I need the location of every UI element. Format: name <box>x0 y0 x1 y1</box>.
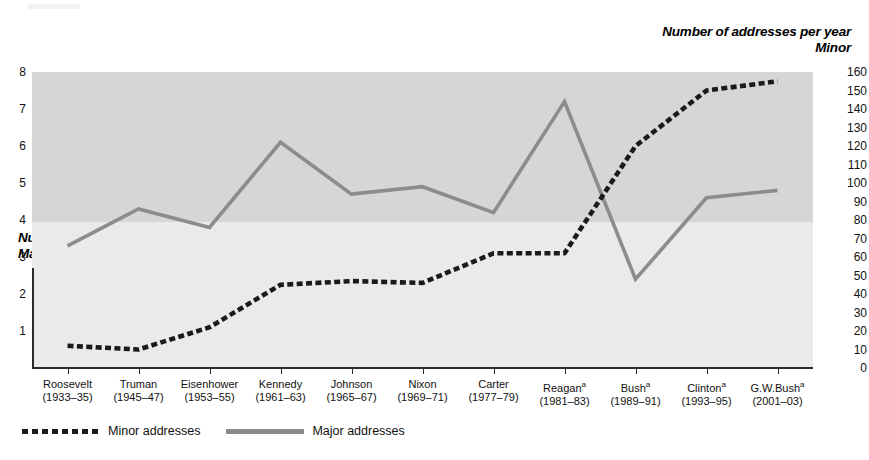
right-tick-80: 80 <box>841 214 867 226</box>
legend-label-minor: Minor addresses <box>108 424 200 438</box>
right-tick-50: 50 <box>841 270 867 282</box>
right-tick-160: 160 <box>841 66 867 78</box>
right-tick-70: 70 <box>841 233 867 245</box>
x-tick-mark <box>707 368 708 374</box>
x-category-footnote-marker: a <box>646 380 650 389</box>
left-tick-4: 4 <box>14 214 26 226</box>
x-tick-mark <box>352 368 353 374</box>
x-tick-mark <box>778 368 779 374</box>
chart-legend: Minor addresses Major addresses <box>22 424 405 438</box>
x-category-years: (1969–71) <box>397 391 447 404</box>
x-category-years: (1989–91) <box>610 395 660 408</box>
x-category-footnote-marker: a <box>582 380 586 389</box>
x-category-roosevelt: Roosevelt(1933–35) <box>42 378 92 404</box>
left-tick-2: 2 <box>14 288 26 300</box>
x-category-clinton: Clintona(1993–95) <box>681 378 731 408</box>
x-category-name: Kennedy <box>255 378 305 391</box>
x-category-name: Eisenhower <box>181 378 238 391</box>
series-line-minor <box>68 81 778 349</box>
legend-swatch-solid-icon <box>226 429 304 434</box>
x-category-name: G.W.Busha <box>751 378 805 395</box>
x-category-years: (1945–47) <box>113 391 163 404</box>
x-tick-mark <box>636 368 637 374</box>
chart-container: Number of addresses per year Minor Numbe… <box>0 0 869 460</box>
x-category-name: Reagana <box>539 378 589 395</box>
x-category-reagan: Reagana(1981–83) <box>539 378 589 408</box>
right-tick-120: 120 <box>841 140 867 152</box>
right-axis-title: Number of addresses per year Minor <box>662 24 851 56</box>
x-category-name: Carter <box>468 378 518 391</box>
right-tick-100: 100 <box>841 177 867 189</box>
right-tick-110: 110 <box>841 159 867 171</box>
right-tick-40: 40 <box>841 288 867 300</box>
x-category-nixon: Nixon(1969–71) <box>397 378 447 404</box>
x-category-years: (1933–35) <box>42 391 92 404</box>
x-category-johnson: Johnson(1965–67) <box>326 378 376 404</box>
legend-swatch-dotted-icon <box>22 429 100 434</box>
x-category-footnote-marker: a <box>721 380 725 389</box>
legend-label-major: Major addresses <box>312 424 404 438</box>
x-category-g-w-bush: G.W.Busha(2001–03) <box>751 378 805 408</box>
x-category-carter: Carter(1977–79) <box>468 378 518 404</box>
right-tick-130: 130 <box>841 122 867 134</box>
right-tick-20: 20 <box>841 325 867 337</box>
legend-item-major: Major addresses <box>226 424 404 438</box>
scan-artifact <box>28 4 80 9</box>
left-axis-line <box>32 268 34 368</box>
x-category-name: Busha <box>610 378 660 395</box>
x-category-truman: Truman(1945–47) <box>113 378 163 404</box>
right-tick-90: 90 <box>841 196 867 208</box>
x-category-kennedy: Kennedy(1961–63) <box>255 378 305 404</box>
x-category-name: Johnson <box>326 378 376 391</box>
left-tick-8: 8 <box>14 66 26 78</box>
x-category-name: Nixon <box>397 378 447 391</box>
x-tick-mark <box>210 368 211 374</box>
x-category-years: (1965–67) <box>326 391 376 404</box>
x-category-years: (1993–95) <box>681 395 731 408</box>
right-tick-0: 0 <box>841 362 867 374</box>
left-tick-5: 5 <box>14 177 26 189</box>
right-tick-150: 150 <box>841 85 867 97</box>
legend-item-minor: Minor addresses <box>22 424 200 438</box>
x-tick-mark <box>494 368 495 374</box>
x-tick-mark <box>565 368 566 374</box>
right-axis-title-line2: Minor <box>662 40 851 56</box>
x-category-years: (1977–79) <box>468 391 518 404</box>
series-svg <box>32 72 813 368</box>
x-category-footnote-marker: a <box>800 380 804 389</box>
x-tick-mark <box>423 368 424 374</box>
x-category-bush: Busha(1989–91) <box>610 378 660 408</box>
right-tick-10: 10 <box>841 344 867 356</box>
x-category-years: (1953–55) <box>181 391 238 404</box>
x-tick-mark <box>139 368 140 374</box>
left-tick-6: 6 <box>14 140 26 152</box>
x-category-eisenhower: Eisenhower(1953–55) <box>181 378 238 404</box>
x-tick-mark <box>281 368 282 374</box>
x-tick-mark <box>68 368 69 374</box>
left-tick-7: 7 <box>14 103 26 115</box>
right-tick-140: 140 <box>841 103 867 115</box>
x-category-years: (1981–83) <box>539 395 589 408</box>
x-category-years: (2001–03) <box>751 395 805 408</box>
right-tick-30: 30 <box>841 307 867 319</box>
x-category-name: Clintona <box>681 378 731 395</box>
right-axis-title-line1: Number of addresses per year <box>662 24 851 40</box>
series-line-major <box>68 102 778 280</box>
x-category-name: Truman <box>113 378 163 391</box>
x-category-years: (1961–63) <box>255 391 305 404</box>
x-category-name: Roosevelt <box>42 378 92 391</box>
right-tick-60: 60 <box>841 251 867 263</box>
plot-area <box>32 72 813 368</box>
left-tick-1: 1 <box>14 325 26 337</box>
left-tick-3: 3 <box>14 251 26 263</box>
